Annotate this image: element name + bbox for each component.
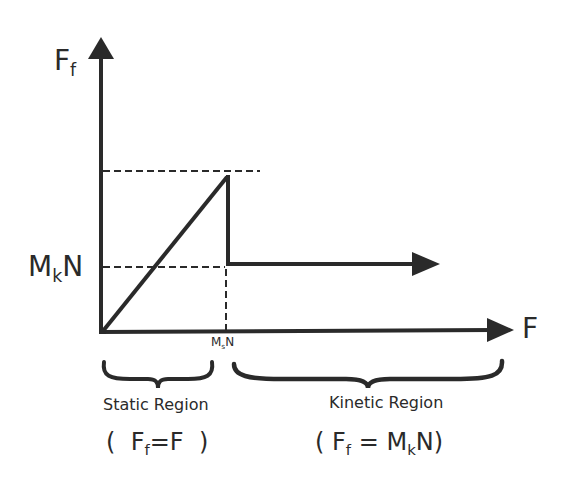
x-axis-label: F	[522, 312, 538, 345]
friction-diagram	[0, 0, 568, 487]
kinetic-region-equation: ( Ff = MkN)	[315, 428, 443, 456]
x-axis-arrowhead-icon	[487, 318, 514, 342]
kinetic-friction-tick-label: MkN	[28, 250, 83, 283]
kinetic-brace	[234, 361, 502, 388]
static-region-equation: ( Ff=F )	[106, 428, 208, 456]
static-brace	[104, 362, 213, 388]
kinetic-region-title: Kinetic Region	[329, 393, 443, 412]
kinetic-arrowhead-icon	[412, 252, 440, 276]
x-axis	[99, 330, 494, 332]
y-axis-arrowhead-icon	[88, 37, 114, 59]
static-region-title: Static Region	[103, 395, 209, 414]
static-ramp-line	[103, 177, 227, 331]
y-axis-label: Ff	[54, 44, 76, 77]
static-friction-tick-label: MsN	[211, 335, 234, 349]
